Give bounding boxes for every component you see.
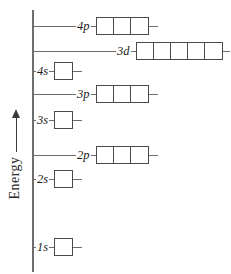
orbital-label: 2p bbox=[76, 148, 91, 163]
orbital-box-group bbox=[96, 146, 149, 164]
level-tail-line bbox=[73, 71, 82, 72]
level-tail-line bbox=[149, 94, 158, 95]
orbital-label: 1s bbox=[36, 240, 49, 255]
orbital-box bbox=[114, 18, 131, 34]
orbital-box bbox=[55, 112, 72, 128]
energy-axis-label-group: Energy bbox=[6, 108, 28, 236]
level-leader-line bbox=[32, 26, 76, 27]
orbital-level-1s: 1s bbox=[32, 236, 82, 258]
level-tail-line bbox=[149, 26, 158, 27]
orbital-energy-diagram: Energy 4p3d4s3p3s2p2s1s bbox=[0, 0, 230, 274]
orbital-box bbox=[154, 43, 171, 59]
orbital-level-2p: 2p bbox=[32, 144, 158, 166]
level-leader-line bbox=[32, 155, 76, 156]
orbital-box-group bbox=[54, 111, 73, 129]
orbital-box-group bbox=[54, 62, 73, 80]
orbital-box-group bbox=[54, 170, 73, 188]
orbital-box bbox=[97, 86, 114, 102]
orbital-box bbox=[205, 43, 222, 59]
level-leader-line bbox=[32, 51, 116, 52]
orbital-box bbox=[114, 86, 131, 102]
orbital-box bbox=[131, 147, 148, 163]
orbital-box-group bbox=[96, 85, 149, 103]
orbital-label: 4s bbox=[36, 64, 49, 79]
level-tail-line bbox=[223, 51, 231, 52]
orbital-level-3s: 3s bbox=[32, 109, 82, 131]
orbital-box-group bbox=[96, 17, 149, 35]
orbital-box bbox=[114, 147, 131, 163]
energy-axis-label: Energy bbox=[7, 142, 23, 214]
level-tail-line bbox=[73, 120, 82, 121]
orbital-box-group bbox=[54, 238, 73, 256]
orbital-box bbox=[97, 18, 114, 34]
orbital-box bbox=[137, 43, 154, 59]
orbital-label: 4p bbox=[76, 19, 91, 34]
orbital-box bbox=[171, 43, 188, 59]
orbital-level-2s: 2s bbox=[32, 168, 82, 190]
orbital-level-4s: 4s bbox=[32, 60, 82, 82]
orbital-level-4p: 4p bbox=[32, 15, 158, 37]
orbital-label: 3p bbox=[76, 87, 91, 102]
orbital-level-3d: 3d bbox=[32, 40, 230, 62]
level-tail-line bbox=[73, 179, 82, 180]
orbital-label: 3s bbox=[36, 113, 49, 128]
orbital-box-group bbox=[136, 42, 223, 60]
orbital-box bbox=[55, 63, 72, 79]
orbital-box bbox=[188, 43, 205, 59]
orbital-box bbox=[97, 147, 114, 163]
level-tail-line bbox=[73, 247, 82, 248]
orbital-box bbox=[131, 18, 148, 34]
orbital-box bbox=[131, 86, 148, 102]
orbital-label: 2s bbox=[36, 172, 49, 187]
orbital-label: 3d bbox=[116, 44, 131, 59]
level-leader-line bbox=[32, 94, 76, 95]
orbital-box bbox=[55, 239, 72, 255]
orbital-box bbox=[55, 171, 72, 187]
orbital-level-3p: 3p bbox=[32, 83, 158, 105]
level-tail-line bbox=[149, 155, 158, 156]
